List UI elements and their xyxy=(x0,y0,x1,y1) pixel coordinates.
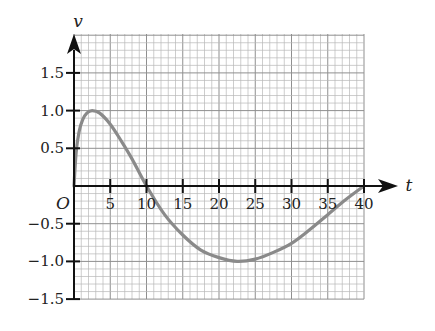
origin-label: O xyxy=(56,193,70,213)
y-axis-label: v xyxy=(73,11,83,31)
x-tick-label: 10 xyxy=(137,195,156,213)
y-tick-label: −1.5 xyxy=(28,290,64,308)
velocity-time-chart: 5101520253035401.51.00.5−0.5−1.0−1.5Otv xyxy=(0,0,435,331)
y-tick-label: 1.0 xyxy=(40,102,64,120)
x-tick-label: 20 xyxy=(209,195,228,213)
x-tick-label: 5 xyxy=(105,195,115,213)
x-axis-label: t xyxy=(406,175,413,195)
x-tick-label: 30 xyxy=(282,195,301,213)
axis-labels: 5101520253035401.51.00.5−0.5−1.0−1.5Otv xyxy=(28,11,413,308)
y-tick-label: 1.5 xyxy=(40,64,64,82)
y-tick-label: −1.0 xyxy=(28,252,64,270)
x-tick-label: 15 xyxy=(173,195,192,213)
y-tick-label: 0.5 xyxy=(40,139,64,157)
y-tick-label: −0.5 xyxy=(28,215,64,233)
grid xyxy=(74,34,364,299)
x-tick-label: 25 xyxy=(246,195,265,213)
x-tick-label: 40 xyxy=(354,195,373,213)
x-tick-label: 35 xyxy=(318,195,337,213)
